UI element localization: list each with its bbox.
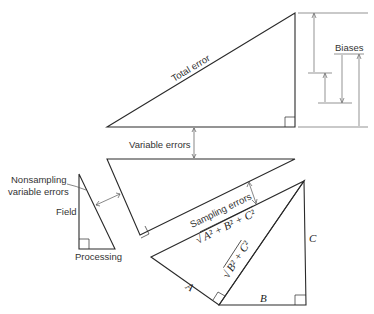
biases-label: Biases	[335, 42, 364, 53]
nonsampling-label-line1: Nonsampling	[11, 174, 66, 185]
variable-errors-arrow	[192, 128, 196, 158]
sqrt-bc-label: √ B² + C²	[220, 238, 253, 280]
total-error-triangle	[107, 13, 295, 127]
biases-brackets	[298, 13, 368, 127]
variable-errors-triangle	[107, 159, 295, 238]
nonsampling-label-line2: variable errors	[8, 186, 69, 197]
side-c-label: C	[309, 232, 317, 244]
error-decomposition-diagram: Total error Biases Variable errors Nonsa…	[0, 0, 374, 314]
hyp-bc-expr: B² + C²	[224, 238, 253, 273]
field-label: Field	[56, 206, 77, 217]
side-b-label: B	[260, 292, 267, 304]
field-processing-triangle	[79, 174, 115, 249]
variable-errors-label: Variable errors	[129, 139, 191, 150]
nonsampling-pointer	[67, 184, 120, 206]
processing-label: Processing	[75, 251, 122, 262]
